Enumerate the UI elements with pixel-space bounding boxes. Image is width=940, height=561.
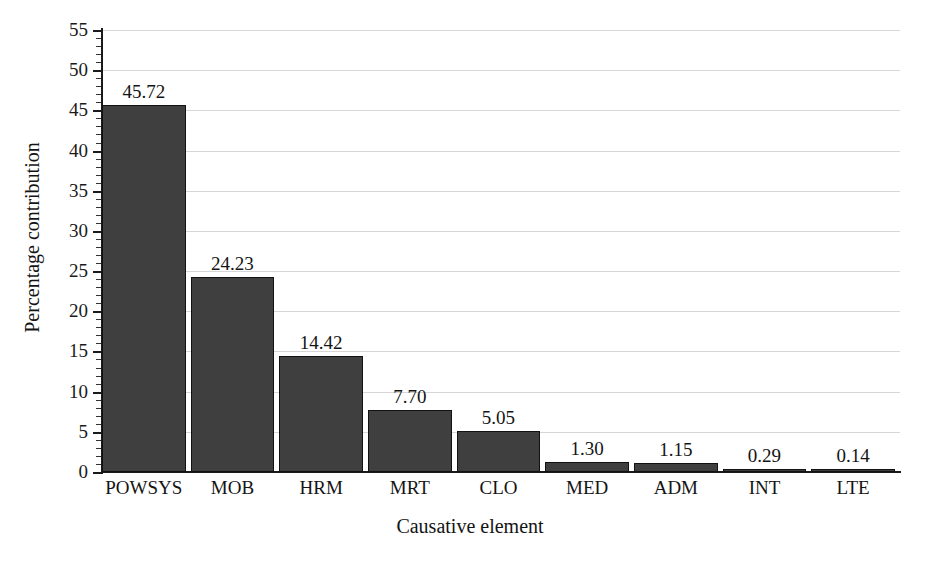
x-axis-tick-label: LTE [811, 477, 895, 499]
y-axis-tick-label: 30 [50, 221, 88, 240]
bar-group: 0.14 [811, 30, 900, 472]
y-axis-tick-label: 40 [50, 141, 88, 160]
y-axis-tick-label: 45 [50, 100, 88, 119]
x-axis-tick-label: INT [723, 477, 807, 499]
bar-group: 0.29 [723, 30, 812, 472]
bar-group: 1.15 [634, 30, 723, 472]
bar-group: 24.23 [191, 30, 280, 472]
plot-area: 45.7224.2314.427.705.051.301.150.290.14 [102, 30, 900, 472]
y-axis-tick-label: 0 [50, 462, 88, 481]
bar[interactable] [545, 462, 629, 472]
y-axis-tick-label: 55 [50, 20, 88, 39]
y-axis-tick-label: 50 [50, 60, 88, 79]
bar-group: 45.72 [102, 30, 191, 472]
bar[interactable] [102, 105, 186, 472]
x-axis-tick-label: MED [545, 477, 629, 499]
y-axis-title: Percentage contribution [21, 28, 44, 448]
x-axis-tick-label: POWSYS [102, 477, 186, 499]
bar[interactable] [457, 431, 541, 472]
bar[interactable] [191, 277, 275, 472]
bar-group: 7.70 [368, 30, 457, 472]
bar-chart-figure: 0510152025303540455055 45.7224.2314.427.… [0, 0, 940, 561]
y-axis-tick-label: 5 [50, 422, 88, 441]
bar[interactable] [279, 356, 363, 472]
bar-group: 5.05 [457, 30, 546, 472]
bar-value-label: 24.23 [211, 254, 254, 274]
bar-value-label: 45.72 [122, 82, 165, 102]
bar[interactable] [634, 463, 718, 472]
bar-value-label: 1.15 [659, 440, 692, 460]
x-axis-tick-label: MOB [191, 477, 275, 499]
bar[interactable] [723, 469, 807, 472]
bar-value-label: 1.30 [571, 439, 604, 459]
bar[interactable] [368, 410, 452, 472]
x-axis-tick-label: MRT [368, 477, 452, 499]
x-axis-tick-label: ADM [634, 477, 718, 499]
bar-group: 14.42 [279, 30, 368, 472]
bar-group: 1.30 [545, 30, 634, 472]
x-axis-tick-label: HRM [279, 477, 363, 499]
y-axis-tick-label: 15 [50, 341, 88, 360]
y-axis-tick-label: 25 [50, 261, 88, 280]
bar-value-label: 0.29 [748, 446, 781, 466]
x-axis-tick-label: CLO [457, 477, 541, 499]
y-axis-tick-label: 35 [50, 181, 88, 200]
bar-value-label: 14.42 [300, 333, 343, 353]
y-axis-tick-label: 10 [50, 382, 88, 401]
bar[interactable] [811, 469, 895, 472]
y-axis-tick-label: 20 [50, 301, 88, 320]
bar-value-label: 7.70 [393, 387, 426, 407]
bar-value-label: 0.14 [837, 446, 870, 466]
x-axis-title: Causative element [0, 515, 940, 538]
bar-value-label: 5.05 [482, 408, 515, 428]
